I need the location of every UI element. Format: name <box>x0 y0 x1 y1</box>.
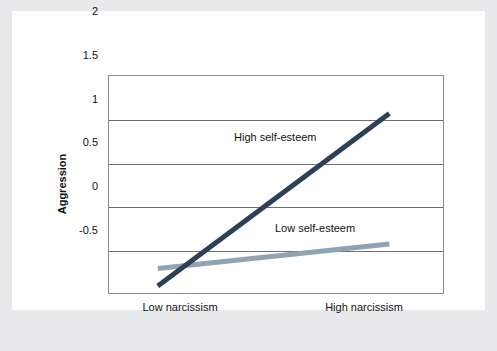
y-tick-label: 0.5 <box>83 136 98 148</box>
x-tick-label-high-narcissism: High narcissism <box>325 301 403 313</box>
y-tick-label: -0.5 <box>79 224 98 236</box>
y-tick-label: 1.5 <box>83 49 98 61</box>
gridline <box>109 120 443 121</box>
y-axis-ticks: 2 1.5 1 0.5 0 -0.5 <box>70 11 102 230</box>
plot-area <box>108 75 444 294</box>
series-label-low-self-esteem: Low self-esteem <box>275 222 355 234</box>
gridline <box>109 251 443 252</box>
y-axis-title: Aggression <box>56 154 68 215</box>
chart-figure: Aggression 2 1.5 1 0.5 0 -0.5 High self-… <box>0 0 497 351</box>
y-tick-label: 2 <box>92 5 98 17</box>
x-tick-label-low-narcissism: Low narcissism <box>142 301 217 313</box>
y-tick-label: 1 <box>92 93 98 105</box>
y-tick-label: 0 <box>92 180 98 192</box>
figure-panel: Aggression 2 1.5 1 0.5 0 -0.5 High self-… <box>12 11 485 310</box>
gridline <box>109 164 443 165</box>
gridline <box>109 207 443 208</box>
series-label-high-self-esteem: High self-esteem <box>234 131 317 143</box>
